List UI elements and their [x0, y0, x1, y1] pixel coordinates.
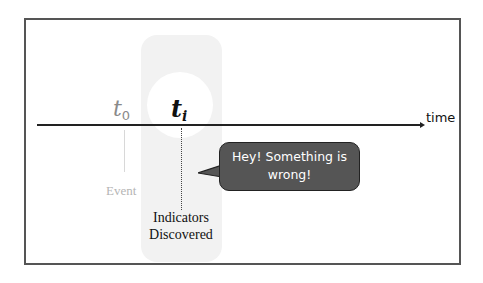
indicators-discovered-label: Indicators Discovered: [140, 209, 222, 243]
arrowhead-icon: [420, 122, 425, 128]
timeline-axis: [37, 124, 422, 126]
axis-label: time: [426, 110, 455, 125]
marker-ti: ti: [171, 94, 187, 124]
event-connector: [124, 130, 125, 172]
indicator-connector: [181, 128, 182, 210]
indicator-label-line-1: Indicators: [140, 209, 222, 226]
marker-t0: t0: [113, 96, 130, 123]
event-label: Event: [106, 183, 136, 199]
indicator-label-line-2: Discovered: [140, 226, 222, 243]
callout-line-1: Hey! Something is: [220, 148, 359, 166]
speech-bubble: Hey! Something is wrong!: [219, 142, 360, 191]
callout-line-2: wrong!: [220, 166, 359, 184]
